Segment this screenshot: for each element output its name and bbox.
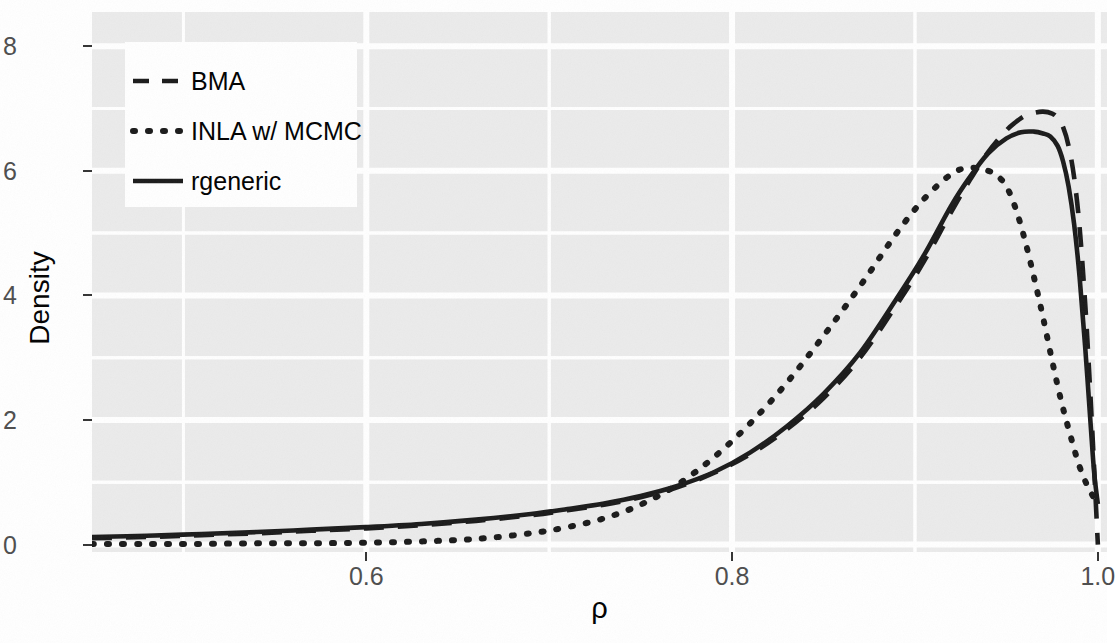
legend-label: BMA	[191, 67, 245, 96]
y-tick-label: 0	[3, 532, 17, 557]
series-curve-inla-w-mcmc	[92, 168, 1098, 544]
y-tick-label: 8	[3, 34, 17, 59]
x-tick-mark	[731, 552, 733, 561]
legend-item-rgeneric[interactable]: rgeneric	[125, 156, 357, 206]
x-tick-mark	[365, 552, 367, 561]
y-tick-mark	[83, 544, 92, 546]
x-tick-mark	[1097, 552, 1099, 561]
x-tick-label: 0.6	[349, 564, 384, 589]
y-tick-label: 4	[3, 283, 17, 308]
y-tick-label: 2	[3, 407, 17, 432]
x-tick-label: 0.8	[715, 564, 750, 589]
y-tick-label: 6	[3, 158, 17, 183]
legend-item-bma[interactable]: BMA	[125, 56, 357, 106]
legend-label: INLA w/ MCMC	[191, 117, 362, 146]
dotted-line-key	[125, 106, 191, 156]
x-axis-title: ρ	[92, 592, 1107, 625]
y-tick-mark	[83, 294, 92, 296]
legend: BMAINLA w/ MCMCrgeneric	[125, 42, 357, 207]
x-tick-label: 1.0	[1080, 564, 1115, 589]
dashed-line-key	[125, 56, 191, 106]
legend-item-inla-w-mcmc[interactable]: INLA w/ MCMC	[125, 106, 357, 156]
legend-label: rgeneric	[191, 167, 281, 196]
solid-line-key	[125, 156, 191, 206]
y-tick-mark	[83, 45, 92, 47]
y-tick-mark	[83, 419, 92, 421]
y-axis-title: Density	[24, 98, 56, 498]
y-tick-mark	[83, 170, 92, 172]
